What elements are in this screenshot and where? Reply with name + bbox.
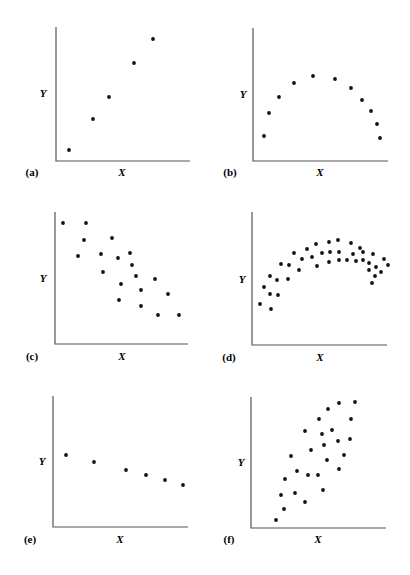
data-point	[320, 251, 324, 255]
data-point	[314, 242, 318, 246]
data-point	[309, 448, 313, 452]
x-axis-label: X	[115, 533, 124, 545]
data-point	[360, 98, 364, 102]
data-points	[67, 37, 155, 152]
data-point	[300, 257, 304, 261]
data-point	[92, 460, 96, 464]
data-point	[64, 453, 68, 457]
data-point	[124, 468, 128, 472]
data-point	[367, 268, 371, 272]
data-point	[139, 304, 143, 308]
data-point	[337, 258, 341, 262]
data-point	[101, 270, 105, 274]
data-point	[378, 136, 382, 140]
data-point	[326, 407, 330, 411]
scatter-figure: (a)XY(b)XY(c)XY(d)XY(e)XY(f)XY	[0, 0, 410, 575]
data-point	[267, 111, 271, 115]
data-point	[320, 432, 324, 436]
data-point	[293, 491, 297, 495]
data-point	[144, 473, 148, 477]
data-point	[287, 263, 291, 267]
axes	[251, 397, 386, 528]
data-point	[283, 477, 287, 481]
x-axis-label: X	[117, 166, 126, 178]
data-point	[82, 238, 86, 242]
y-axis-label: Y	[240, 88, 248, 100]
data-point	[328, 250, 332, 254]
data-point	[282, 507, 286, 511]
data-point	[317, 417, 321, 421]
data-point	[292, 251, 296, 255]
panel-label: (b)	[223, 166, 237, 179]
data-point	[76, 254, 80, 258]
data-point	[327, 260, 331, 264]
data-point	[61, 221, 65, 225]
data-point	[177, 313, 181, 317]
data-point	[349, 86, 353, 90]
data-point	[349, 241, 353, 245]
data-point	[67, 148, 71, 152]
data-point	[132, 61, 136, 65]
data-point	[269, 307, 273, 311]
scatter-panel-f: (f)XY	[224, 397, 387, 546]
data-point	[349, 417, 353, 421]
panel-label: (c)	[26, 350, 39, 363]
data-point	[336, 439, 340, 443]
axes	[53, 396, 188, 527]
scatter-panel-a: (a)XY	[26, 27, 190, 179]
y-axis-label: Y	[40, 272, 48, 284]
data-point	[274, 518, 278, 522]
scatter-panel-c: (c)XY	[26, 212, 188, 363]
data-point	[268, 274, 272, 278]
y-axis-label: Y	[239, 273, 247, 285]
data-point	[367, 261, 371, 265]
data-point	[119, 282, 123, 286]
data-point	[337, 250, 341, 254]
axes	[56, 27, 190, 161]
axes	[252, 212, 387, 345]
data-point	[139, 288, 143, 292]
data-point	[107, 95, 111, 99]
panel-label: (a)	[26, 166, 39, 179]
data-point	[386, 263, 390, 267]
data-point	[116, 256, 120, 260]
x-axis-label: X	[315, 351, 324, 363]
data-point	[345, 258, 349, 262]
data-point	[303, 500, 307, 504]
data-point	[110, 236, 114, 240]
data-point	[262, 134, 266, 138]
panel-label: (f)	[224, 533, 235, 546]
data-point	[153, 277, 157, 281]
data-point	[166, 292, 170, 296]
data-point	[354, 259, 358, 263]
x-axis-label: X	[315, 166, 324, 178]
data-point	[315, 264, 319, 268]
data-point	[91, 117, 95, 121]
data-point	[330, 428, 334, 432]
data-point	[371, 252, 375, 256]
scatter-panel-e: (e)XY	[24, 396, 188, 546]
scatter-panel-d: (d)XY	[222, 212, 390, 364]
y-axis-label: Y	[238, 456, 246, 468]
data-points	[64, 453, 185, 487]
axes	[253, 28, 388, 161]
data-points	[274, 400, 357, 522]
data-point	[358, 246, 362, 250]
data-point	[382, 257, 386, 261]
data-point	[84, 221, 88, 225]
data-point	[316, 473, 320, 477]
data-point	[268, 292, 272, 296]
data-point	[375, 122, 379, 126]
data-point	[348, 437, 352, 441]
data-point	[337, 467, 341, 471]
data-point	[295, 469, 299, 473]
data-point	[337, 401, 341, 405]
y-axis-label: Y	[39, 455, 47, 467]
data-point	[289, 454, 293, 458]
x-axis-label: X	[313, 533, 322, 545]
data-point	[262, 285, 266, 289]
data-point	[325, 458, 329, 462]
data-point	[130, 263, 134, 267]
data-point	[327, 240, 331, 244]
data-point	[322, 443, 326, 447]
